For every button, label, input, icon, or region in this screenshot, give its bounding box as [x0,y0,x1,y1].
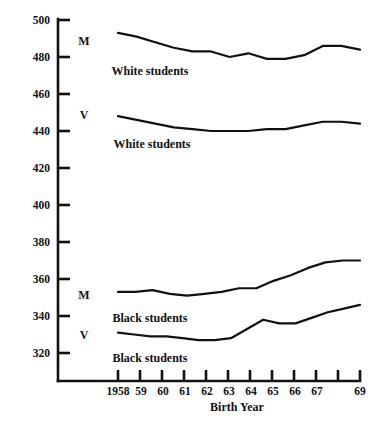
x-axis-title: Birth Year [210,400,265,414]
y-tick-label-460: 460 [33,88,51,100]
series-caption-white-v: White students [113,137,190,151]
y-tick-label-480: 480 [33,51,51,63]
x-tick-label-65: 65 [267,385,279,397]
x-tick-label-63: 63 [223,385,235,397]
chart-container: 500 480 460 440 420 400 380 360 340 320 … [0,0,378,437]
x-tick-label-59: 59 [135,385,147,397]
series-caption-black-m: Black students [112,311,187,325]
x-tick-label-67: 67 [311,385,323,397]
series-tag-white-m: M [78,34,89,48]
line-chart-svg: 500 480 460 440 420 400 380 360 340 320 … [0,0,378,437]
x-tick-label-1958: 1958 [107,385,130,397]
x-tick-label-64: 64 [245,385,257,397]
x-tick-label-69: 69 [354,385,366,397]
series-line-black-m [118,261,360,296]
x-tick-label-61: 61 [179,385,191,397]
series-line-white-v [118,116,360,131]
y-tick-label-380: 380 [33,236,51,248]
y-tick-label-360: 360 [33,273,51,285]
series-caption-black-v: Black students [112,351,187,365]
y-tick-label-420: 420 [33,162,51,174]
series-caption-white-m: White students [111,64,188,78]
y-tick-label-400: 400 [33,199,51,211]
series-line-white-m [118,33,360,59]
x-tick-label-62: 62 [201,385,213,397]
y-tick-label-440: 440 [33,125,51,137]
series-tag-white-v: V [80,108,89,122]
x-tick-label-66: 66 [289,385,301,397]
y-tick-label-500: 500 [33,14,51,26]
y-tick-label-320: 320 [33,347,51,359]
y-tick-label-340: 340 [33,310,51,322]
series-tag-black-v: V [80,328,89,342]
x-tick-label-60: 60 [157,385,169,397]
series-tag-black-m: M [78,288,89,302]
